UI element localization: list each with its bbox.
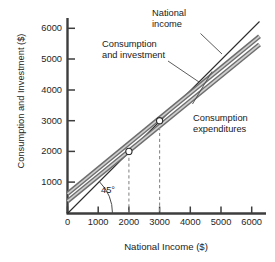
annotation-national-income-line2: income — [152, 19, 186, 30]
annotation-consumption-and-investment-line1: Consumption — [102, 39, 165, 50]
y-axis-title: Consumption and Investment ($) — [16, 26, 26, 176]
annotation-national-income: National income — [152, 8, 186, 30]
leader-lines-group — [168, 34, 222, 105]
y-tick-4000: 4000 — [28, 85, 62, 95]
y-tick-marks — [68, 28, 75, 182]
y-tick-3000: 3000 — [28, 116, 62, 126]
annotation-national-income-line1: National — [152, 8, 186, 19]
x-tick-4000: 4000 — [176, 217, 204, 227]
x-tick-5000: 5000 — [207, 217, 235, 227]
x-tick-1000: 1000 — [84, 217, 112, 227]
y-tick-1000: 1000 — [28, 177, 62, 187]
x-tick-6000: 6000 — [238, 217, 266, 227]
y-tick-2000: 2000 — [28, 146, 62, 156]
droplines-group — [129, 121, 160, 212]
x-tick-0: 0 — [54, 217, 82, 227]
leader-national-income — [201, 34, 223, 55]
annotation-consumption-expenditures-line1: Consumption — [193, 113, 248, 124]
chart-figure: 6000 5000 4000 3000 2000 1000 0 1000 200… — [0, 0, 275, 262]
annotation-consumption-and-investment-line2: and investment — [102, 50, 165, 61]
leader-consumption-investment — [168, 61, 199, 82]
marker-3000-3000 — [157, 118, 163, 124]
annotation-consumption-and-investment: Consumption and investment — [102, 39, 165, 61]
marker-2000-2000 — [126, 148, 132, 154]
annotation-angle-45-degrees: 45° — [101, 185, 115, 196]
annotation-consumption-expenditures-line2: expenditures — [193, 124, 248, 135]
x-tick-2000: 2000 — [115, 217, 143, 227]
annotation-consumption-expenditures: Consumption expenditures — [193, 113, 248, 135]
y-tick-6000: 6000 — [28, 23, 62, 33]
x-tick-3000: 3000 — [146, 217, 174, 227]
y-tick-5000: 5000 — [28, 54, 62, 64]
x-axis-title: National Income ($) — [67, 241, 265, 252]
